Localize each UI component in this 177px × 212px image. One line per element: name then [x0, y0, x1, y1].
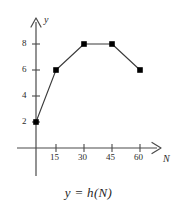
x-tick-label-60: 60: [134, 153, 143, 162]
plot-area: [0, 0, 177, 212]
data-point-45-8: [109, 41, 115, 47]
x-axis-name: N: [163, 154, 170, 164]
y-tick-label-2: 2: [22, 117, 27, 126]
x-tick-label-45: 45: [106, 153, 115, 162]
y-tick-label-6: 6: [22, 65, 27, 74]
x-tick-label-15: 15: [50, 153, 59, 162]
y-axis-name: y: [44, 15, 48, 25]
y-tick-label-4: 4: [22, 91, 27, 100]
data-point-60-6: [137, 67, 143, 73]
data-point-0-2: [33, 119, 39, 125]
data-point-15-6: [53, 67, 59, 73]
data-points: [33, 41, 143, 125]
y-axis: [31, 18, 41, 176]
y-tick-label-8: 8: [22, 39, 27, 48]
data-point-30-8: [81, 41, 87, 47]
data-line: [36, 44, 140, 122]
figure-caption: y = h(N): [0, 185, 177, 201]
figure-container: 2 4 6 8 15 30 45 60 y N y = h(N): [0, 0, 177, 212]
x-tick-label-30: 30: [78, 153, 87, 162]
